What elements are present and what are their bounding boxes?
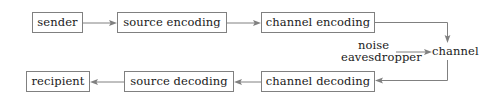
node-channel-encoding: channel encoding — [261, 12, 375, 33]
node-source-encoding-label: source encoding — [123, 17, 221, 29]
edge-channel-decoding-to-source-decoding-arrow-icon — [234, 76, 261, 88]
edge-eavesdropper-to-channel-arrow-icon — [396, 47, 432, 57]
edge-source-encoding-to-channel-encoding-arrow-icon — [227, 17, 261, 29]
node-sender: sender — [32, 12, 83, 33]
node-recipient-label: recipient — [31, 76, 84, 88]
node-source-decoding: source decoding — [124, 71, 234, 92]
node-source-encoding: source encoding — [117, 12, 227, 33]
communication-system-diagram: sender source encoding channel encoding … — [0, 0, 493, 99]
label-channel: channel — [432, 46, 479, 58]
node-sender-label: sender — [37, 17, 77, 29]
edge-sender-to-source-encoding-arrow-icon — [83, 17, 117, 29]
node-channel-decoding-label: channel decoding — [266, 76, 371, 88]
node-channel-decoding: channel decoding — [261, 71, 375, 92]
node-recipient: recipient — [26, 71, 90, 92]
edge-source-decoding-to-recipient-arrow-icon — [90, 76, 124, 88]
node-source-decoding-label: source decoding — [130, 76, 227, 88]
edge-channel-encoding-to-channel-elbow-icon — [375, 17, 453, 43]
node-channel-encoding-label: channel encoding — [266, 17, 371, 29]
edge-channel-to-channel-decoding-elbow-icon — [375, 60, 453, 86]
